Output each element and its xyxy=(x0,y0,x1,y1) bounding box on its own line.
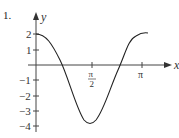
function-graph: x y 2 1 −1 −2 −3 −4 π 2 π xyxy=(0,0,179,138)
x-axis-arrow-icon xyxy=(164,62,172,68)
x-tick-label-pi-over-2-den: 2 xyxy=(90,79,95,89)
y-axis-label: y xyxy=(40,10,47,24)
y-tick-label: −4 xyxy=(19,120,31,132)
y-axis xyxy=(33,12,39,132)
x-tick-label-pi-over-2-num: π xyxy=(89,69,94,79)
x-tick-label-pi: π xyxy=(138,69,143,80)
x-axis-label: x xyxy=(173,58,179,72)
y-tick-label: −3 xyxy=(19,105,31,117)
y-tick-label: 2 xyxy=(26,28,32,40)
x-axis xyxy=(28,62,172,68)
y-tick-label: −1 xyxy=(19,74,31,86)
y-axis-arrow-icon xyxy=(33,12,39,20)
y-tick-label: 1 xyxy=(26,44,32,56)
y-tick-label: −2 xyxy=(19,90,31,102)
